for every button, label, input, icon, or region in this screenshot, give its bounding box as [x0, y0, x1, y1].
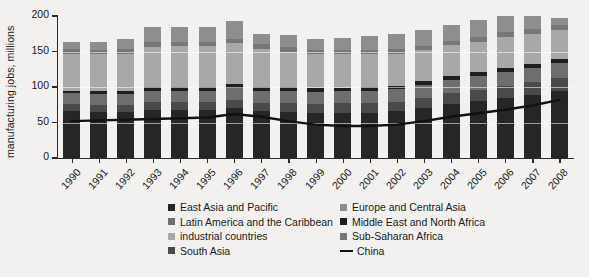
legend-item[interactable]: Latin America and the Caribbean — [168, 215, 348, 230]
bar-segment — [171, 42, 188, 46]
legend-item[interactable]: South Asia — [168, 244, 348, 259]
legend-line-swatch — [340, 250, 353, 252]
bar-segment — [171, 110, 188, 158]
x-axis-tick-label: 2000 — [326, 166, 354, 195]
x-axis-tick-label: 2007 — [516, 166, 544, 195]
legend-item-label: East Asia and Pacific — [180, 202, 278, 213]
legend-color-swatch — [168, 204, 175, 211]
bar-segment — [171, 102, 188, 110]
bar-segment — [443, 76, 460, 80]
bar-segment — [334, 88, 351, 92]
x-axis-tick-label: 1993 — [136, 166, 164, 195]
bar-segment — [63, 111, 80, 158]
bar-segment — [307, 104, 324, 113]
x-axis-tick-mark — [316, 158, 317, 163]
bar-segment — [253, 111, 270, 158]
bar-segment — [226, 39, 243, 43]
y-axis-tick-label: 150 — [31, 44, 49, 56]
x-axis-tick-mark — [72, 158, 73, 163]
x-axis-tick-mark — [153, 158, 154, 163]
bar-segment — [307, 113, 324, 158]
bar-segment — [63, 104, 80, 111]
x-axis-tick-label: 1999 — [299, 166, 327, 195]
bar-segment — [199, 27, 216, 42]
legend-color-swatch — [340, 233, 347, 240]
bar-segment — [443, 104, 460, 158]
legend: East Asia and PacificLatin America and t… — [168, 200, 568, 262]
legend-item[interactable]: East Asia and Pacific — [168, 200, 348, 215]
bar-segment — [334, 103, 351, 112]
x-axis-tick-mark — [424, 158, 425, 163]
bar-segment — [280, 112, 297, 158]
legend-item-label: South Asia — [180, 246, 230, 257]
legend-item[interactable]: China — [340, 244, 560, 259]
bar-segment — [117, 105, 134, 112]
x-axis-tick-label: 2006 — [488, 166, 516, 195]
bar-segment — [443, 93, 460, 104]
bar-segment — [551, 18, 568, 24]
legend-item-label: Middle East and North Africa — [352, 217, 485, 228]
bar-segment — [415, 46, 432, 50]
x-axis-tick-mark — [451, 158, 452, 163]
bar-segment — [497, 86, 514, 98]
bar-segment — [388, 34, 405, 49]
x-axis-tick-mark — [397, 158, 398, 163]
x-axis-tick-mark — [505, 158, 506, 163]
legend-item[interactable]: Europe and Central Asia — [340, 200, 560, 215]
bar-segment — [90, 105, 107, 112]
bar-segment — [307, 88, 324, 92]
bar-segment — [443, 25, 460, 41]
bar-segment — [63, 93, 80, 104]
bar-segment — [226, 108, 243, 158]
bar-segment — [117, 39, 134, 50]
bar-segment — [90, 54, 107, 91]
legend-item[interactable]: Middle East and North Africa — [340, 215, 560, 230]
bar-segment — [551, 25, 568, 30]
bar-segment — [90, 112, 107, 158]
x-axis-tick-label: 2004 — [434, 166, 462, 195]
x-axis-tick-label: 1991 — [82, 166, 110, 195]
bar-segment — [415, 30, 432, 46]
bar-segment — [199, 102, 216, 110]
legend-color-swatch — [168, 247, 175, 254]
bar-segment — [388, 111, 405, 158]
x-axis-tick-mark — [180, 158, 181, 163]
bar-segment — [253, 91, 270, 103]
bar-segment — [361, 54, 378, 87]
bar-segment — [90, 42, 107, 51]
bar-segment — [280, 103, 297, 112]
legend-item-label: Latin America and the Caribbean — [180, 217, 333, 228]
x-axis-tick-label: 2001 — [353, 166, 381, 195]
bar-segment — [497, 32, 514, 37]
x-axis-tick-label: 2002 — [380, 166, 408, 195]
bar-segment — [470, 37, 487, 42]
x-axis-tick-mark — [559, 158, 560, 163]
bar-segment — [307, 39, 324, 50]
x-axis-tick-mark — [99, 158, 100, 163]
x-axis-tick-mark — [288, 158, 289, 163]
bar-segment — [361, 113, 378, 158]
x-axis-tick-mark — [126, 158, 127, 163]
bar-segment — [497, 98, 514, 158]
bar-segment — [524, 64, 541, 68]
legend-item-label: China — [357, 246, 384, 257]
legend-column-right: Europe and Central AsiaMiddle East and N… — [340, 200, 560, 258]
bar-segment — [470, 72, 487, 76]
bar-segment — [226, 43, 243, 84]
bar-segment — [171, 27, 188, 42]
bar-segment — [144, 42, 161, 46]
legend-item[interactable]: industrial countries — [168, 229, 348, 244]
bar-segment — [443, 41, 460, 45]
bar-segment — [63, 42, 80, 50]
bar-segment — [253, 34, 270, 45]
bar-segment — [551, 63, 568, 78]
bar-segment — [334, 113, 351, 158]
bar-segment — [497, 72, 514, 86]
bar-segment — [63, 91, 80, 94]
bar-segment — [361, 91, 378, 104]
legend-item[interactable]: Sub-Saharan Africa — [340, 229, 560, 244]
bar-segment — [524, 34, 541, 64]
bar-segment — [171, 91, 188, 102]
bar-segment — [361, 103, 378, 112]
bar-segment — [334, 54, 351, 87]
